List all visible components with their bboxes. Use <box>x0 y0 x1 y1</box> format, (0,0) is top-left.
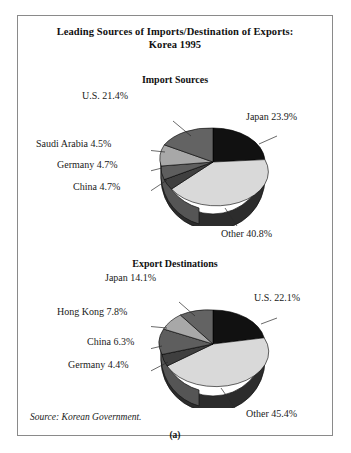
import-label-saudi: Saudi Arabia 4.5% <box>36 138 111 150</box>
import-label-us: U.S. 21.4% <box>82 90 128 102</box>
import-chart-heading: Import Sources <box>18 74 332 85</box>
export-label-china: China 6.3% <box>87 336 134 348</box>
figure-frame: Leading Sources of Imports/Destination o… <box>17 15 333 436</box>
import-label-china: China 4.7% <box>73 181 120 193</box>
export-pie-slices <box>159 310 269 387</box>
import-pie-slices <box>160 128 269 206</box>
import-label-other: Other 40.8% <box>221 228 272 240</box>
export-label-germany: Germany 4.4% <box>68 359 129 371</box>
import-slice-japan <box>213 128 265 162</box>
source-note: Source: Korean Government. <box>30 412 141 422</box>
figure-title: Leading Sources of Imports/Destination o… <box>28 25 322 51</box>
export-label-japan: Japan 14.1% <box>105 272 156 284</box>
import-label-germany: Germany 4.7% <box>57 159 118 171</box>
export-chart-heading: Export Destinations <box>18 258 332 269</box>
figure-title-line-2: Korea 1995 <box>28 38 322 51</box>
export-label-us: U.S. 22.1% <box>254 292 300 304</box>
export-label-other: Other 45.4% <box>246 408 297 420</box>
figure-title-line-1: Leading Sources of Imports/Destination o… <box>57 26 294 37</box>
import-label-japan: Japan 23.9% <box>246 111 297 123</box>
panel-caption: (a) <box>18 430 332 440</box>
export-label-hongkong: Hong Kong 7.8% <box>57 306 127 318</box>
